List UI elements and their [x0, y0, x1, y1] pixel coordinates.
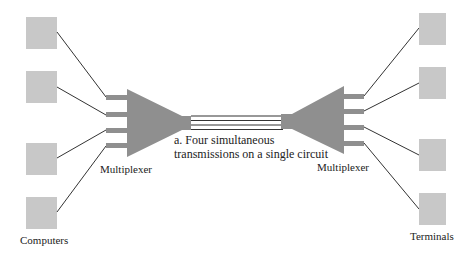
- terminals-group: [419, 13, 446, 225]
- terminal-links: [364, 28, 419, 209]
- computer-1: [26, 17, 57, 49]
- computer-4: [26, 197, 57, 229]
- computer-2: [26, 71, 57, 103]
- computer-3: [26, 143, 57, 175]
- computers-group: [26, 17, 57, 229]
- terminal-3: [419, 139, 446, 171]
- terminals-label: Terminals: [410, 230, 454, 242]
- caption-line-1: a. Four simultaneous: [174, 133, 274, 148]
- terminal-1: [419, 13, 446, 45]
- right-multiplexer: [281, 86, 364, 154]
- computers-label: Computers: [20, 234, 68, 246]
- computer-links: [57, 32, 106, 212]
- left-multiplexer-label: Multiplexer: [100, 163, 152, 175]
- caption-line-2: transmissions on a single circuit: [174, 147, 328, 162]
- multiplexing-diagram: [0, 0, 469, 260]
- right-multiplexer-label: Multiplexer: [317, 161, 369, 173]
- terminal-4: [419, 193, 446, 225]
- terminal-2: [419, 67, 446, 99]
- single-circuit: [191, 115, 283, 130]
